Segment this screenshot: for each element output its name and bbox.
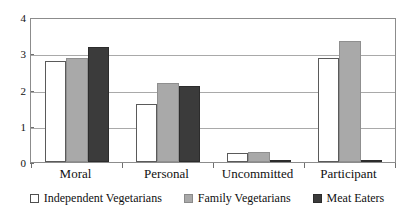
y-tick-label-2: 2 (4, 85, 26, 96)
y-tick-label-0: 0 (4, 158, 26, 169)
legend-item-family[interactable]: Family Vegetarians (184, 192, 291, 205)
chart-legend: Independent VegetariansFamily Vegetarian… (0, 188, 414, 208)
legend-item-independent[interactable]: Independent Vegetarians (30, 192, 162, 205)
bar-moral-family (66, 58, 88, 162)
bar-participant-family (339, 41, 361, 162)
bar-groups (32, 18, 396, 162)
bar-moral-independent (45, 61, 67, 162)
bar-uncommitted-independent (227, 153, 249, 162)
legend-label: Independent Vegetarians (44, 192, 162, 205)
y-axis: 4 3 2 1 0 (0, 18, 26, 163)
legend-item-meat[interactable]: Meat Eaters (313, 192, 385, 205)
y-tick-label-4: 4 (4, 13, 26, 24)
x-label-uncommitted: Uncommitted (212, 166, 303, 182)
bar-group-participant (305, 18, 396, 162)
bar-uncommitted-meat (270, 160, 292, 162)
bar-group-uncommitted (214, 18, 305, 162)
bar-personal-family (157, 83, 179, 162)
x-label-personal: Personal (121, 166, 212, 182)
y-tick-label-3: 3 (4, 49, 26, 60)
bar-participant-independent (318, 58, 340, 162)
bar-personal-meat (179, 86, 201, 162)
x-label-moral: Moral (30, 166, 121, 182)
x-label-participant: Participant (303, 166, 394, 182)
bar-personal-independent (136, 104, 158, 162)
legend-swatch-meat-icon (313, 194, 322, 203)
y-tick-label-1: 1 (4, 121, 26, 132)
bar-participant-meat (361, 160, 383, 162)
legend-swatch-family-icon (184, 194, 193, 203)
bar-chart: 4 3 2 1 0 Moral Personal Uncommitted Par… (0, 0, 414, 212)
bar-group-personal (123, 18, 214, 162)
bar-group-moral (32, 18, 123, 162)
bar-uncommitted-family (248, 152, 270, 162)
legend-swatch-independent-icon (30, 194, 39, 203)
legend-label: Meat Eaters (327, 192, 385, 205)
x-axis-labels: Moral Personal Uncommitted Participant (30, 166, 396, 184)
bar-moral-meat (88, 47, 110, 162)
legend-label: Family Vegetarians (198, 192, 291, 205)
